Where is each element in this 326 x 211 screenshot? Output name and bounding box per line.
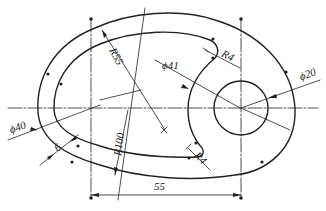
arrow-55-left — [91, 193, 99, 197]
construction-line — [100, 90, 141, 100]
r55-leader — [102, 30, 165, 130]
tangent-points — [46, 17, 287, 200]
inner-profile — [54, 32, 218, 157]
phi20-leader-lower — [241, 108, 290, 130]
r4-bottom-leader — [188, 148, 210, 170]
drawing-svg — [0, 0, 326, 211]
arrowheads — [30, 30, 277, 197]
arrow-r100 — [114, 167, 118, 175]
drawing-canvas: R55 R100 ϕ41 R4 R4 ϕ20 ϕ40 6 55 — [0, 0, 326, 211]
center-marks — [161, 48, 209, 149]
arrow-55-right — [233, 193, 241, 197]
arrow-phi41 — [181, 84, 189, 89]
r4-top-leader — [205, 50, 240, 68]
arrow-phi20 — [268, 94, 277, 98]
dimension-lines — [8, 8, 320, 200]
outer-profile — [38, 13, 295, 178]
